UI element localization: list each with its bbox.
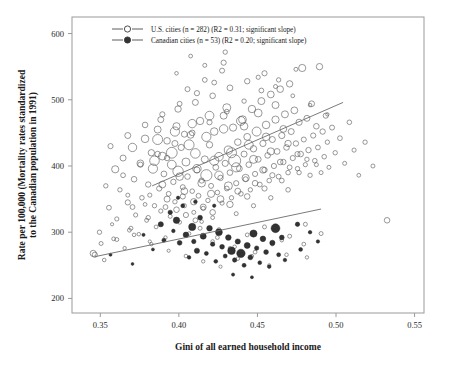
data-point-us [128, 143, 136, 151]
data-point-canadian [250, 230, 257, 237]
data-point-us [183, 212, 188, 217]
x-tick-label: 0.55 [407, 320, 422, 330]
data-point-canadian [210, 242, 214, 246]
data-point-us [123, 246, 126, 249]
data-point-us [267, 148, 274, 155]
data-point-us [252, 171, 257, 176]
data-point-us [299, 64, 306, 71]
legend-marker-us [124, 26, 130, 32]
data-point-us [170, 127, 179, 136]
data-point-canadian [248, 255, 253, 260]
data-point-us [252, 127, 261, 136]
data-point-us [330, 125, 335, 130]
data-point-us [196, 117, 203, 124]
data-point-us [371, 164, 375, 168]
data-point-us [277, 159, 283, 165]
data-point-us [200, 220, 204, 224]
data-point-canadian [226, 235, 232, 241]
data-point-us [172, 140, 178, 146]
data-point-us [293, 141, 298, 146]
data-point-canadian [158, 222, 163, 227]
data-point-canadian [213, 204, 216, 207]
data-point-us [90, 250, 96, 256]
data-point-us [154, 225, 158, 229]
data-point-us [232, 163, 241, 172]
data-point-us [248, 188, 252, 192]
data-point-us [311, 133, 316, 138]
data-point-us [189, 54, 193, 58]
data-point-canadian [194, 248, 199, 253]
data-point-us [118, 188, 122, 192]
x-tick-label: 0.35 [93, 320, 108, 330]
data-point-us [288, 129, 294, 135]
data-point-us [97, 230, 101, 234]
data-point-us [269, 196, 273, 200]
data-point-us [244, 194, 250, 200]
data-point-canadian [220, 244, 225, 249]
data-point-canadian [168, 210, 172, 214]
data-point-us [301, 137, 306, 142]
data-point-us [234, 139, 241, 146]
data-point-us [207, 120, 212, 125]
data-point-us [178, 144, 184, 150]
data-point-us [222, 160, 228, 166]
data-point-us [322, 154, 327, 159]
data-point-us [223, 50, 227, 54]
data-point-us [227, 85, 233, 91]
data-point-us [343, 161, 347, 165]
data-point-canadian [187, 256, 191, 260]
x-tick-label: 0.50 [329, 320, 344, 330]
data-point-us [274, 85, 278, 89]
data-point-canadian [198, 215, 203, 220]
data-point-us [163, 205, 168, 210]
data-point-us [262, 71, 267, 76]
y-tick-label: 600 [51, 29, 64, 39]
data-point-us [326, 113, 329, 116]
data-point-us [125, 200, 130, 205]
data-point-us [173, 123, 180, 130]
data-point-us [168, 214, 172, 218]
data-point-us [316, 145, 321, 150]
data-point-us [159, 209, 163, 213]
x-tick-label: 0.40 [171, 320, 186, 330]
y-axis-title-line: to the Canadian population in 1991) [28, 92, 39, 238]
data-point-us [175, 106, 181, 112]
data-point-canadian [176, 196, 179, 199]
legend-label-us: U.S. cities (n = 282) (R2 = 0.31; signif… [151, 26, 296, 34]
data-point-us [102, 258, 106, 262]
data-point-us [184, 140, 194, 150]
data-point-us [160, 112, 165, 117]
data-point-canadian [228, 247, 236, 255]
data-point-canadian [131, 263, 134, 266]
data-point-us [252, 180, 258, 186]
data-point-us [155, 151, 161, 157]
data-point-us [164, 138, 171, 145]
data-point-us [272, 116, 279, 123]
data-point-us [173, 200, 177, 204]
data-points-us-cities [90, 50, 390, 268]
data-point-canadian [192, 239, 196, 243]
data-point-us [130, 205, 135, 210]
data-point-us [245, 233, 249, 237]
data-point-us [126, 193, 130, 197]
data-point-us [200, 204, 206, 210]
data-point-us [99, 241, 103, 245]
y-tick-label: 200 [51, 293, 64, 303]
data-point-us [245, 79, 250, 84]
data-point-us [333, 151, 337, 155]
data-point-us [219, 265, 222, 268]
data-point-us [110, 223, 113, 226]
data-point-canadian [295, 222, 299, 226]
data-point-us [363, 140, 367, 144]
data-point-us [258, 98, 265, 105]
data-point-us [271, 163, 276, 168]
data-point-us [161, 171, 167, 177]
data-point-us [291, 94, 295, 98]
data-point-us [327, 165, 331, 169]
data-point-us [286, 170, 291, 175]
data-point-us [288, 234, 292, 238]
data-point-us [203, 63, 207, 67]
data-point-us [143, 203, 147, 207]
data-point-us [274, 149, 280, 155]
data-point-us [242, 174, 249, 181]
